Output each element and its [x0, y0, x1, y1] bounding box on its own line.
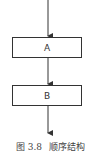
figure-number: 图 3.8 [16, 140, 42, 153]
flowchart: A B [0, 0, 101, 161]
process-box-a-label: A [44, 43, 51, 53]
figure-caption: 图 3.8顺序结构 [0, 140, 101, 153]
process-box-b-label: B [44, 91, 50, 101]
figure-title: 顺序结构 [49, 140, 85, 153]
